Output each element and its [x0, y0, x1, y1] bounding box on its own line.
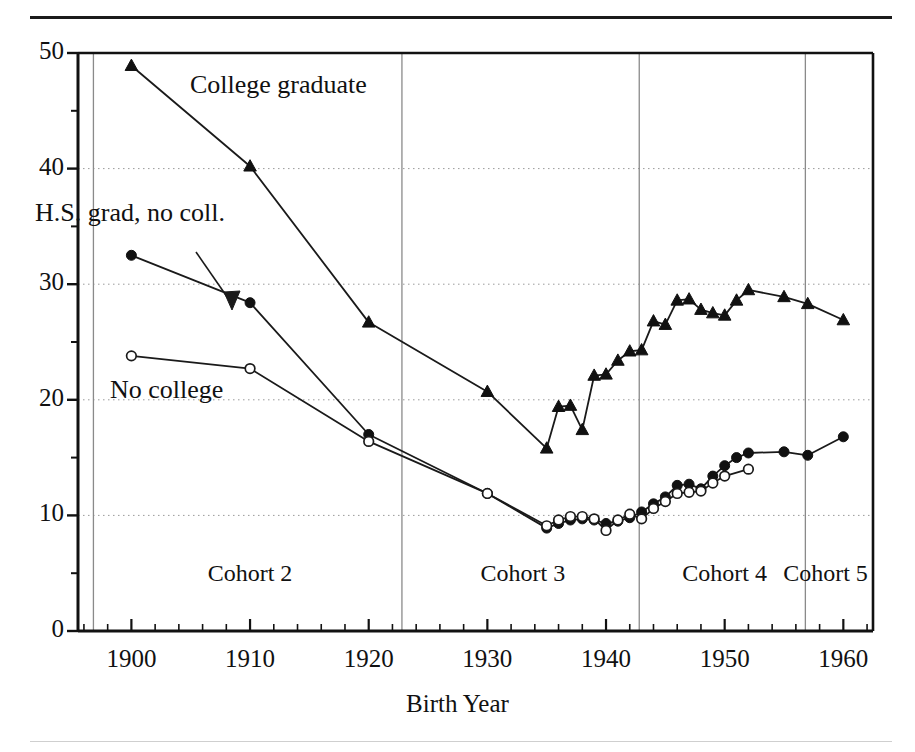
marker-filled-circle-1-20 — [732, 453, 742, 463]
y-tick-label-50: 50 — [8, 37, 64, 65]
marker-open-circle-2-8 — [589, 514, 599, 524]
marker-triangle-0-24 — [837, 313, 850, 324]
y-tick-label-20: 20 — [8, 384, 64, 412]
marker-open-circle-2-4 — [542, 521, 552, 531]
x-tick-label-1940: 1940 — [562, 645, 650, 673]
marker-open-circle-2-1 — [245, 364, 255, 374]
cohort-label-2: Cohort 2 — [180, 560, 320, 587]
y-tick-label-30: 30 — [8, 268, 64, 296]
marker-open-circle-2-19 — [720, 471, 730, 481]
marker-open-circle-2-0 — [127, 351, 137, 361]
marker-triangle-0-7 — [576, 423, 589, 434]
marker-filled-circle-1-0 — [126, 250, 136, 260]
y-tick-label-0: 0 — [8, 615, 64, 643]
marker-open-circle-2-7 — [577, 512, 587, 522]
marker-triangle-0-0 — [125, 59, 138, 70]
x-tick-label-1950: 1950 — [681, 645, 769, 673]
marker-triangle-0-13 — [647, 315, 660, 326]
figure-container: Birth Year College graduate H.S. grad, n… — [0, 0, 915, 752]
marker-filled-circle-1-22 — [779, 447, 789, 457]
x-tick-label-1910: 1910 — [206, 645, 294, 673]
marker-open-circle-2-15 — [672, 489, 682, 499]
y-tick-label-10: 10 — [8, 499, 64, 527]
marker-open-circle-2-12 — [637, 514, 647, 524]
marker-filled-circle-1-19 — [720, 461, 730, 471]
marker-filled-circle-1-1 — [245, 298, 255, 308]
marker-triangle-0-3 — [481, 385, 494, 396]
marker-filled-circle-1-23 — [803, 450, 813, 460]
x-tick-label-1960: 1960 — [799, 645, 887, 673]
marker-triangle-0-10 — [612, 354, 625, 365]
x-axis-title: Birth Year — [0, 690, 915, 718]
x-tick-label-1900: 1900 — [87, 645, 175, 673]
x-tick-label-1930: 1930 — [443, 645, 531, 673]
marker-open-circle-2-10 — [613, 515, 623, 525]
marker-open-circle-2-2 — [364, 437, 374, 447]
x-tick-label-1920: 1920 — [325, 645, 413, 673]
marker-triangle-0-16 — [683, 293, 696, 304]
marker-open-circle-2-13 — [649, 504, 659, 514]
marker-open-circle-2-3 — [483, 489, 493, 499]
y-tick-label-40: 40 — [8, 153, 64, 181]
marker-open-circle-2-20 — [744, 464, 754, 474]
series-label-hs-grad: H.S. grad, no coll. — [35, 198, 225, 228]
marker-open-circle-2-5 — [554, 515, 564, 525]
marker-triangle-0-12 — [635, 343, 648, 354]
marker-open-circle-2-11 — [625, 509, 635, 519]
marker-triangle-0-6 — [564, 399, 577, 410]
marker-filled-circle-1-24 — [838, 432, 848, 442]
marker-open-circle-2-6 — [566, 512, 576, 522]
series-label-college-graduate: College graduate — [190, 70, 367, 100]
marker-open-circle-2-17 — [696, 486, 706, 496]
hs-grad-arrow-head — [224, 291, 240, 310]
marker-open-circle-2-18 — [708, 478, 718, 488]
marker-triangle-0-21 — [742, 283, 755, 294]
marker-open-circle-2-16 — [684, 487, 694, 497]
cohort-label-3: Cohort 3 — [453, 560, 593, 587]
marker-filled-circle-1-21 — [743, 448, 753, 458]
marker-open-circle-2-9 — [601, 526, 611, 536]
marker-open-circle-2-14 — [661, 497, 671, 507]
cohort-label-5: Cohort 5 — [756, 560, 896, 587]
series-label-no-college: No college — [110, 375, 223, 405]
